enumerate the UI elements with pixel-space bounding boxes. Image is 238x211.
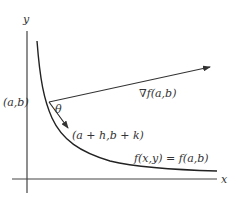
gradient-label: ∇f(a,b) xyxy=(139,87,176,100)
x-axis-label: x xyxy=(221,173,228,186)
level-curve-diagram: y x (a,b) θ ∇f(a,b) (a + h,b + k) f(x,y)… xyxy=(0,0,238,211)
secant-point-label: (a + h,b + k) xyxy=(72,129,144,142)
y-axis-label: y xyxy=(22,13,30,26)
curve-label: f(x,y) = f(a,b) xyxy=(133,152,209,165)
gradient-arrow xyxy=(49,67,210,102)
angle-label: θ xyxy=(55,103,62,116)
point-label: (a,b) xyxy=(3,96,29,109)
